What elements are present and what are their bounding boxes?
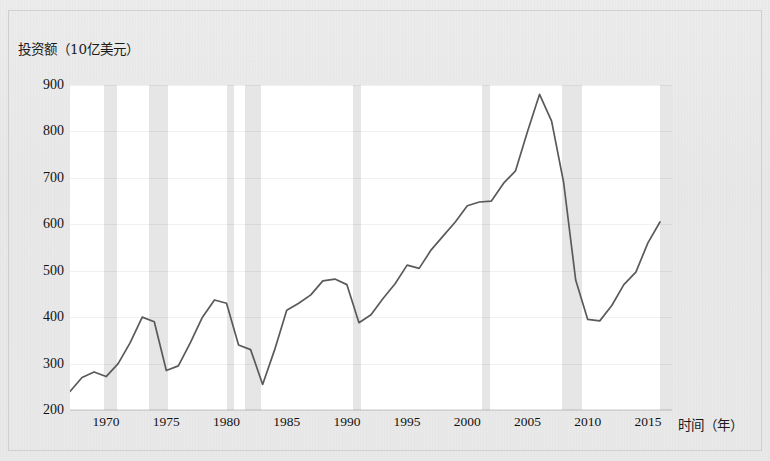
plot-area: [70, 85, 672, 410]
x-tick-label: 1985: [273, 414, 300, 430]
y-tick-label: 200: [2, 403, 64, 417]
x-tick-label: 2005: [514, 414, 541, 430]
x-axis-baseline: [70, 409, 672, 411]
data-line: [70, 94, 660, 391]
y-tick-label: 800: [2, 124, 64, 138]
y-axis-tick-labels: 900800700600500400300200: [0, 0, 64, 461]
y-tick-label: 400: [2, 310, 64, 324]
y-tick-label: 500: [2, 264, 64, 278]
x-tick-label: 2000: [454, 414, 481, 430]
x-tick-label: 1990: [333, 414, 360, 430]
line-series-svg: [70, 85, 672, 410]
y-tick-label: 300: [2, 357, 64, 371]
y-tick-label: 900: [2, 78, 64, 92]
y-tick-label: 700: [2, 171, 64, 185]
x-axis-label: 时间（年）: [678, 414, 743, 434]
x-tick-label: 1995: [394, 414, 421, 430]
x-tick-label: 2010: [574, 414, 601, 430]
x-tick-label: 1975: [153, 414, 180, 430]
x-tick-label: 1970: [93, 414, 120, 430]
y-tick-label: 600: [2, 217, 64, 231]
x-tick-label: 2015: [634, 414, 661, 430]
x-tick-label: 1980: [213, 414, 240, 430]
